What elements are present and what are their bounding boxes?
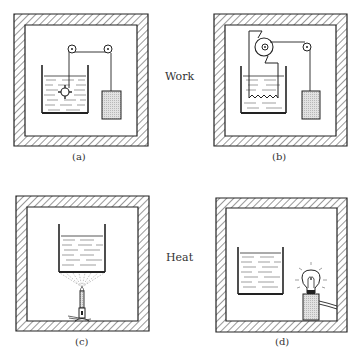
panel-d (216, 198, 347, 332)
light-bulb-icon (302, 270, 320, 294)
paddle-wheel-icon (58, 85, 72, 99)
panel-a (14, 14, 148, 146)
liquid (61, 236, 103, 265)
generator-icon (255, 38, 273, 56)
flame-rays (60, 273, 104, 287)
row-label-heat: Heat (166, 251, 194, 264)
beaker (238, 247, 283, 294)
falling-weight (102, 91, 121, 119)
beaker (241, 66, 286, 113)
caption-a: (a) (72, 151, 86, 162)
beaker (59, 224, 105, 272)
row-label-work: Work (165, 70, 194, 83)
power-cord (319, 301, 337, 309)
work-heat-figure: Work Heat (a) (b) (c) (d) (0, 0, 360, 361)
pulley-system (68, 45, 112, 91)
caption-c: (c) (75, 336, 89, 347)
resistor-icon (249, 93, 278, 98)
panel-c (16, 196, 149, 331)
insulated-wall (216, 198, 347, 332)
lamp-base (303, 294, 319, 320)
panel-b (214, 14, 347, 146)
liquid (240, 253, 281, 287)
caption-d: (d) (275, 336, 289, 347)
pulley-system (270, 42, 311, 91)
insulated-wall (214, 14, 347, 146)
falling-weight (302, 91, 320, 119)
bunsen-burner-icon (68, 287, 91, 321)
caption-b: (b) (272, 151, 286, 162)
